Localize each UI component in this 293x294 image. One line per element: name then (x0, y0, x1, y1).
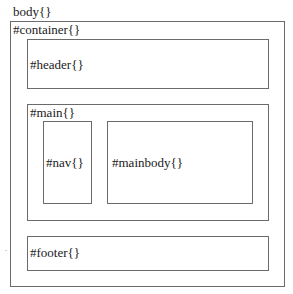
body-label: body{} (13, 5, 51, 19)
footer-label: #footer{} (30, 246, 80, 260)
stray-mark (5, 250, 7, 251)
header-label: #header{} (30, 58, 84, 72)
nav-label: #nav{} (46, 156, 84, 170)
main-label: #main{} (30, 106, 75, 120)
mainbody-label: #mainbody{} (112, 156, 183, 170)
container-label: #container{} (13, 23, 80, 37)
